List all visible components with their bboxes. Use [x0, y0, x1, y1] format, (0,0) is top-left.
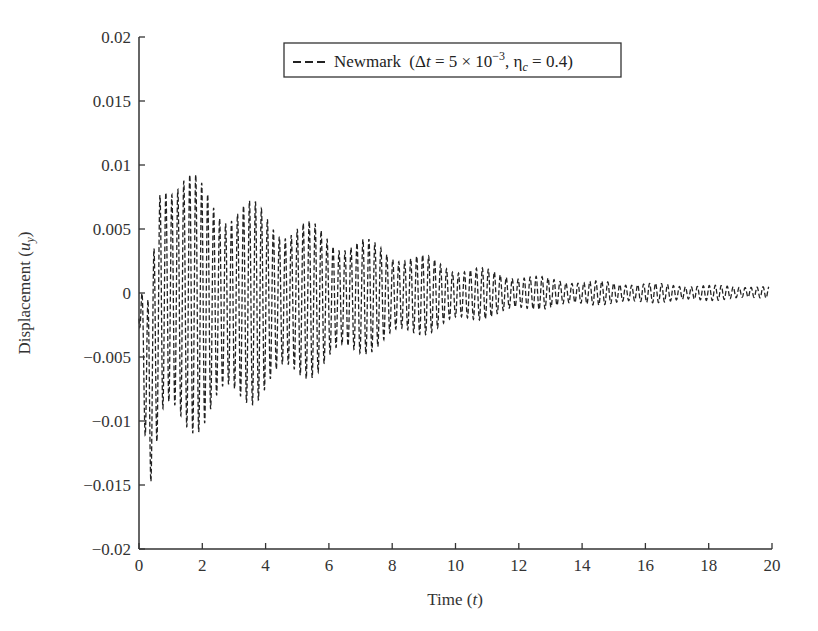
- y-tick-label: 0.015: [93, 92, 131, 111]
- x-tick-label: 16: [637, 556, 654, 575]
- axes: 0.020.0150.010.0050−0.005−0.01−0.015−0.0…: [83, 28, 780, 575]
- x-tick-label: 14: [574, 556, 592, 575]
- y-tick-label: 0.01: [101, 156, 131, 175]
- x-tick-label: 0: [135, 556, 144, 575]
- displacement-chart: 0.020.0150.010.0050−0.005−0.01−0.015−0.0…: [0, 0, 818, 631]
- y-tick-label: 0.005: [93, 220, 131, 239]
- x-tick-label: 18: [700, 556, 717, 575]
- legend-label: Newmark (Δt = 5 × 10−3, ηc = 0.4): [334, 49, 573, 74]
- newmark-displacement-series: [139, 175, 769, 482]
- y-tick-label: 0: [123, 284, 132, 303]
- x-axis-title: Time (t): [427, 590, 483, 609]
- y-ticks: 0.020.0150.010.0050−0.005−0.01−0.015−0.0…: [83, 28, 145, 559]
- y-tick-label: −0.01: [92, 412, 131, 431]
- y-axis-title: Displacement (uy): [15, 232, 37, 355]
- x-ticks: 02468101214161820: [135, 543, 781, 575]
- y-tick-label: 0.02: [101, 28, 131, 47]
- legend: Newmark (Δt = 5 × 10−3, ηc = 0.4): [284, 43, 621, 77]
- x-tick-label: 6: [325, 556, 334, 575]
- x-tick-label: 4: [261, 556, 270, 575]
- x-tick-label: 2: [198, 556, 207, 575]
- plot-area: [139, 175, 769, 482]
- x-tick-label: 20: [764, 556, 781, 575]
- y-tick-label: −0.02: [92, 540, 131, 559]
- y-tick-label: −0.005: [83, 348, 131, 367]
- x-tick-label: 8: [388, 556, 397, 575]
- y-tick-label: −0.015: [83, 476, 131, 495]
- x-tick-label: 12: [510, 556, 527, 575]
- x-tick-label: 10: [447, 556, 464, 575]
